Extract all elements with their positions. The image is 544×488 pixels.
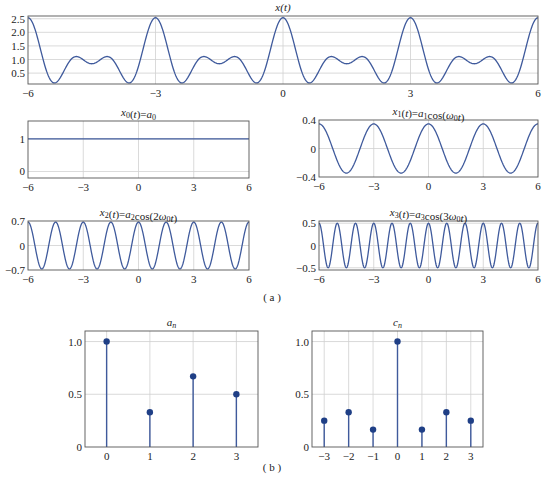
y-tick-label: 1.0: [11, 54, 25, 66]
chart-x1_t: −0.400.4−6−3036x1(t)=a1cos(ω0t): [296, 105, 541, 192]
x-tick-label: −1: [367, 450, 379, 462]
x-tick-label: −3: [368, 180, 380, 192]
y-tick-label: 1.0: [295, 336, 309, 348]
y-tick-label: 0: [311, 143, 317, 155]
x-tick-label: −2: [343, 450, 355, 462]
x-tick-label: 3: [468, 450, 474, 462]
x-tick-label: −3: [77, 273, 89, 285]
x0_t-title: x0(t)=a0: [120, 106, 156, 122]
c_n-title: cn: [393, 316, 402, 330]
x-tick-label: −3: [77, 181, 89, 193]
chart-c_n: 00.51.0−3−2−10123cn: [295, 316, 483, 462]
y-tick-label: 2.0: [11, 26, 25, 38]
x-tick-label: 0: [136, 273, 142, 285]
chart-x0_t: 01−6−3036x0(t)=a0: [20, 106, 253, 193]
stem-marker: [103, 338, 109, 344]
caption-b: ( b ): [263, 461, 282, 474]
x-tick-label: 6: [246, 181, 252, 193]
x-tick-label: 0: [280, 87, 286, 99]
x-tick-label: −6: [22, 87, 34, 99]
x-tick-label: 3: [481, 273, 487, 285]
y-tick-label: 0.4: [302, 114, 316, 126]
y-tick-label: −0.5: [296, 262, 316, 274]
x-tick-label: 2: [444, 450, 450, 462]
x-tick-label: 3: [234, 450, 240, 462]
x-tick-label: 2: [190, 450, 196, 462]
x_t-title: x(t): [274, 1, 291, 14]
x-tick-label: 6: [535, 87, 541, 99]
x-tick-label: −3: [150, 87, 162, 99]
y-tick-label: 0: [20, 165, 26, 177]
y-tick-label: 0.5: [295, 388, 309, 400]
stem-marker: [345, 409, 351, 415]
stem-marker: [370, 426, 376, 432]
stem-marker: [321, 417, 327, 423]
x-tick-label: 3: [481, 180, 487, 192]
chart-x3_t: −0.500.5−6−3036x3(t)=a3cos(3ω0t): [296, 206, 541, 285]
x-tick-label: 3: [191, 273, 197, 285]
chart-x_t: 0.51.01.52.02.5−6−3036x(t): [11, 1, 541, 99]
x-tick-label: 6: [246, 273, 252, 285]
y-tick-label: 1.0: [68, 336, 82, 348]
caption-a: ( a ): [263, 291, 281, 304]
fourier-series-figure: 0.51.01.52.02.5−6−3036x(t)01−6−3036x0(t)…: [0, 0, 544, 488]
x-tick-label: 0: [426, 273, 432, 285]
x-tick-label: 6: [535, 180, 541, 192]
x-tick-label: 3: [191, 181, 197, 193]
x-tick-label: 1: [147, 450, 153, 462]
y-tick-label: 0: [20, 240, 26, 252]
y-tick-label: 0.5: [11, 67, 25, 79]
y-tick-label: 0.5: [302, 217, 316, 229]
stem-marker: [147, 409, 153, 415]
y-tick-label: 1.5: [11, 40, 25, 52]
y-tick-label: 1: [20, 133, 26, 145]
x-tick-label: 6: [535, 273, 541, 285]
y-tick-label: 0: [77, 441, 83, 453]
x-tick-label: −3: [368, 273, 380, 285]
stem-marker: [190, 373, 196, 379]
stem-marker: [468, 417, 474, 423]
x-tick-label: −6: [313, 273, 325, 285]
y-tick-label: 0.5: [68, 388, 82, 400]
stem-marker: [443, 409, 449, 415]
x-tick-label: 1: [419, 450, 425, 462]
x-tick-label: −6: [22, 273, 34, 285]
x-tick-label: 0: [395, 450, 401, 462]
a_n-title: an: [167, 316, 177, 330]
y-tick-label: 0.7: [11, 215, 25, 227]
plots-layer: 0.51.01.52.02.5−6−3036x(t)01−6−3036x0(t)…: [5, 1, 541, 462]
chart-a_n: 00.51.00123an: [68, 316, 258, 462]
x-tick-label: −3: [318, 450, 330, 462]
y-tick-label: 0: [304, 441, 310, 453]
y-tick-label: 0: [311, 240, 317, 252]
chart-x2_t: −0.700.7−6−3036x2(t)=a2cos(2ω0t): [5, 206, 252, 285]
stem-marker: [394, 338, 400, 344]
y-tick-label: 2.5: [11, 13, 25, 25]
x-tick-label: −6: [313, 180, 325, 192]
x-tick-label: 0: [104, 450, 110, 462]
stem-marker: [419, 426, 425, 432]
a_n-axes-box: [85, 331, 258, 447]
x-tick-label: 0: [426, 180, 432, 192]
x-tick-label: 0: [136, 181, 142, 193]
x-tick-label: 3: [408, 87, 414, 99]
x-tick-label: −6: [22, 181, 34, 193]
stem-marker: [233, 391, 239, 397]
